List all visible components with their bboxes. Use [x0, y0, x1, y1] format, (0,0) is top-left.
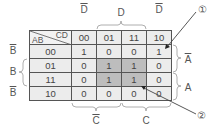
brace-c-bar	[72, 103, 121, 111]
arrow-2-head	[141, 86, 146, 90]
brace-a-bar	[173, 45, 181, 72]
brace-c	[122, 103, 171, 111]
brace-b	[19, 59, 27, 86]
brace-d	[97, 21, 146, 29]
arrow-1-line	[167, 12, 196, 47]
arrow-2-line	[144, 88, 196, 114]
brace-a	[173, 73, 181, 100]
braces-arrows-overlay	[0, 0, 216, 138]
